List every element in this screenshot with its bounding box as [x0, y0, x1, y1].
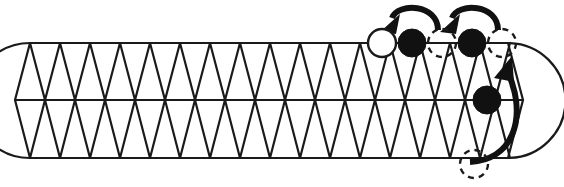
- particle-occupied-site-1: [398, 29, 426, 57]
- figure-canvas: [0, 0, 564, 187]
- particle-open-site: [368, 29, 396, 57]
- particle-occupied-site-2: [458, 29, 486, 57]
- lattice-diagram: [0, 0, 564, 187]
- particle-occupied-site-3: [473, 86, 501, 114]
